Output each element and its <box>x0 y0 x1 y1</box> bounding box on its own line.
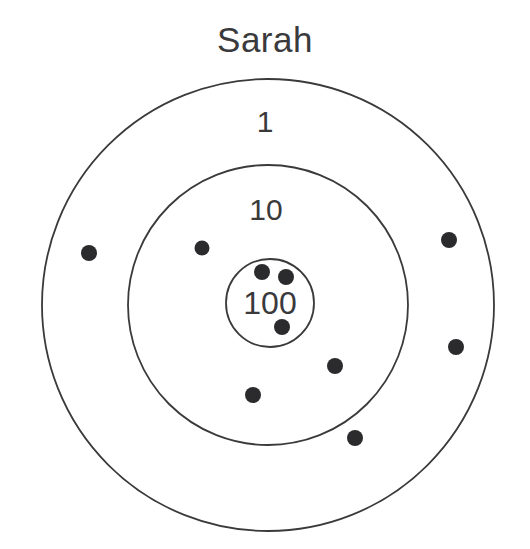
hit-dot <box>441 232 457 248</box>
target-board: Sarah 1 10 100 <box>0 0 530 549</box>
hit-dot <box>448 339 464 355</box>
hit-dot <box>195 241 210 256</box>
ring-label-outer: 1 <box>257 107 274 137</box>
hit-dot <box>327 358 343 374</box>
hit-dot <box>274 319 290 335</box>
ring-label-inner: 100 <box>243 287 296 319</box>
hit-dot <box>245 387 261 403</box>
hit-dot <box>254 264 270 280</box>
hit-dot <box>347 430 363 446</box>
hit-dot <box>81 245 97 261</box>
ring-label-middle: 10 <box>249 195 282 225</box>
hit-dot <box>278 269 294 285</box>
